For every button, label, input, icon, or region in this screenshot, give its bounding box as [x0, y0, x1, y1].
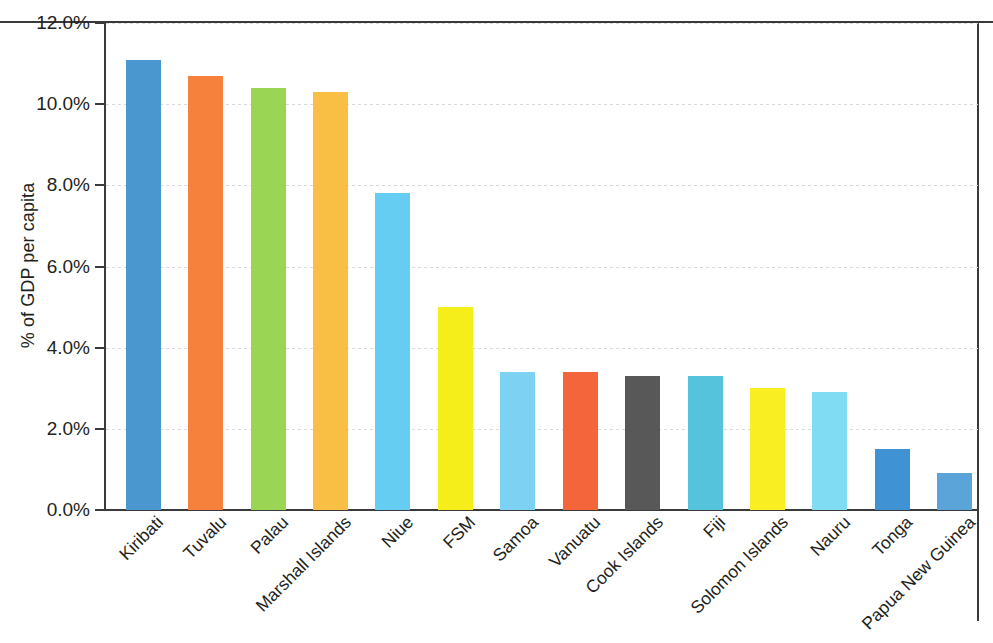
- bar: [625, 376, 660, 510]
- bar: [563, 372, 598, 510]
- x-axis-tick-label: Kiribati: [111, 512, 168, 569]
- x-axis-tick-label: Palau: [242, 512, 293, 563]
- x-axis-tick-label: Niue: [373, 512, 418, 557]
- bar: [875, 449, 910, 510]
- x-axis-tick-label: Vanuatu: [541, 512, 605, 576]
- x-axis-tick-label: Samoa: [484, 512, 542, 570]
- y-axis-tick-label: 0.0%: [0, 499, 90, 521]
- x-axis-tick-label-text: Palau: [242, 512, 293, 563]
- chart-figure: % of GDP per capita 0.0%2.0%4.0%6.0%8.0%…: [0, 0, 993, 643]
- gridline: [106, 104, 978, 105]
- x-axis-tick-label: Fiji: [695, 512, 730, 547]
- bar: [688, 376, 723, 510]
- plot-area: [104, 23, 978, 510]
- gridline: [106, 23, 978, 24]
- x-axis-tick-label-text: Tonga: [864, 512, 917, 565]
- x-axis-tick-label-text: Niue: [373, 512, 418, 557]
- gridline: [106, 348, 978, 349]
- bar: [500, 372, 535, 510]
- y-axis-tick: [95, 266, 104, 268]
- bar: [126, 60, 161, 510]
- bar: [188, 76, 223, 510]
- y-axis-tick: [95, 103, 104, 105]
- x-axis-tick-label: Papua New Guinea: [853, 512, 979, 638]
- bar: [937, 473, 972, 510]
- bar: [313, 92, 348, 510]
- bar: [812, 392, 847, 510]
- y-axis-tick: [95, 509, 104, 511]
- x-axis-tick-label-text: FSM: [435, 512, 480, 557]
- x-axis-tick-label-text: Samoa: [484, 512, 542, 570]
- x-axis-tick-label: Tonga: [864, 512, 917, 565]
- bar: [438, 307, 473, 510]
- x-axis-tick-label: Nauru: [802, 512, 855, 565]
- y-axis-tick: [95, 22, 104, 24]
- gridline: [106, 185, 978, 186]
- y-axis-tick: [95, 428, 104, 430]
- bar: [375, 193, 410, 510]
- x-axis-tick-label: FSM: [435, 512, 480, 557]
- y-axis-tick-label: 6.0%: [0, 256, 90, 278]
- bar: [251, 88, 286, 510]
- x-axis-tick-label-text: Nauru: [802, 512, 855, 565]
- x-axis-tick-label-text: Kiribati: [111, 512, 168, 569]
- y-axis-tick: [95, 347, 104, 349]
- x-axis-tick-label-text: Vanuatu: [541, 512, 605, 576]
- y-axis-tick-label: 4.0%: [0, 337, 90, 359]
- x-axis-tick-label-text: Tuvalu: [175, 512, 231, 568]
- x-axis-tick-labels: KiribatiTuvaluPalauMarshall IslandsNiueF…: [104, 512, 984, 643]
- x-axis-tick-label-text: Fiji: [695, 512, 730, 547]
- y-axis-tick-label: 12.0%: [0, 12, 90, 34]
- y-axis-tick-label: 2.0%: [0, 418, 90, 440]
- y-axis-tick-label: 8.0%: [0, 174, 90, 196]
- y-axis-tick: [95, 184, 104, 186]
- x-axis-tick-label-text: Papua New Guinea: [853, 512, 979, 638]
- x-axis-tick-label: Tuvalu: [175, 512, 231, 568]
- bar: [750, 388, 785, 510]
- y-axis-tick-label: 10.0%: [0, 93, 90, 115]
- gridline: [106, 267, 978, 268]
